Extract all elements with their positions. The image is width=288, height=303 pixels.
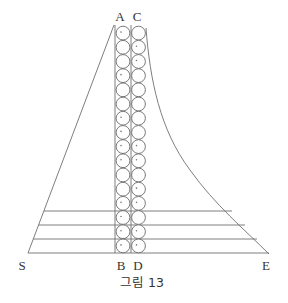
right-circle [132, 111, 146, 125]
right-circle [132, 196, 146, 210]
label-E: E [262, 259, 270, 272]
left-circle [116, 225, 130, 239]
dot-mark [136, 187, 138, 189]
dot-mark [136, 60, 138, 62]
left-slant-line [28, 25, 114, 253]
dot-mark [120, 244, 122, 246]
label-D: D [133, 259, 142, 272]
right-circle [132, 182, 146, 196]
right-circle [132, 55, 146, 69]
dot-mark [120, 230, 122, 232]
label-C: C [133, 10, 142, 23]
right-circle [132, 26, 146, 40]
right-circle [132, 211, 146, 225]
right-circle [132, 154, 146, 168]
dot-mark [136, 145, 138, 147]
right-circle [132, 97, 146, 111]
left-circle [116, 140, 130, 154]
dot-mark [120, 74, 122, 76]
dot-mark [136, 202, 138, 204]
dot-mark [136, 230, 138, 232]
left-circle [116, 26, 130, 40]
diagram-canvas [0, 0, 288, 303]
dot-mark [120, 131, 122, 133]
left-circle [116, 83, 130, 97]
dot-mark [120, 216, 122, 218]
right-circle [132, 69, 146, 83]
left-circle [116, 97, 130, 111]
dot-mark [120, 31, 122, 33]
right-circle [132, 40, 146, 54]
left-circle [116, 211, 130, 225]
dot-mark [120, 116, 122, 118]
dot-mark [120, 202, 122, 204]
dot-mark [136, 244, 138, 246]
dot-mark [136, 45, 138, 47]
left-circle [116, 69, 130, 83]
label-S: S [18, 259, 25, 272]
circle-column-left [116, 26, 130, 253]
left-circle [116, 182, 130, 196]
right-circle [132, 225, 146, 239]
circle-column-right [132, 26, 146, 253]
label-B: B [117, 259, 126, 272]
dot-mark [136, 159, 138, 161]
right-circle [132, 126, 146, 140]
left-circle [116, 111, 130, 125]
dot-mark [120, 159, 122, 161]
right-curve [146, 28, 269, 254]
left-circle [116, 126, 130, 140]
left-circle [116, 55, 130, 69]
right-circle [132, 83, 146, 97]
left-circle [116, 154, 130, 168]
right-circle [132, 168, 146, 182]
figure-caption: 그림 13 [120, 272, 164, 291]
dot-mark [120, 145, 122, 147]
left-circle [116, 196, 130, 210]
label-A: A [115, 10, 124, 23]
right-circle [132, 140, 146, 154]
left-circle [116, 40, 130, 54]
left-circle [116, 239, 130, 253]
right-circle [132, 239, 146, 253]
horizontal-lines [28, 211, 269, 253]
left-circle [116, 168, 130, 182]
